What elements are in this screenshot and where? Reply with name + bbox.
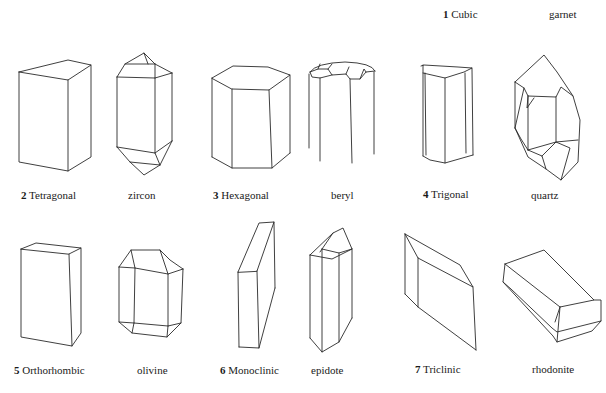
label-monoclinic: 6 Monoclinic <box>220 364 279 376</box>
monoclinic-crystal-drawing <box>238 222 275 348</box>
label-epidote: epidote <box>311 364 343 376</box>
system-name: Cubic <box>451 8 477 20</box>
system-number: 5 <box>14 364 20 376</box>
triclinic-crystal-drawing <box>405 234 476 350</box>
crystal-drawings <box>0 0 606 393</box>
system-name: Monoclinic <box>228 364 279 376</box>
system-number: 7 <box>415 363 421 375</box>
zircon-crystal-drawing <box>117 53 172 175</box>
trigonal-crystal-drawing <box>421 65 473 163</box>
label-olivine: olivine <box>137 364 168 376</box>
tetragonal-crystal-drawing <box>19 60 91 171</box>
label-trigonal: 4 Trigonal <box>423 188 469 200</box>
system-number: 3 <box>213 189 219 201</box>
quartz-crystal-drawing <box>515 55 580 180</box>
olivine-crystal-drawing <box>119 250 183 337</box>
label-orthorhombic: 5 Orthorhombic <box>14 364 85 376</box>
system-name: Tetragonal <box>29 189 76 201</box>
label-tetragonal: 2 Tetragonal <box>21 189 76 201</box>
label-triclinic: 7 Triclinic <box>415 363 461 375</box>
label-quartz: quartz <box>531 189 558 201</box>
label-cubic: 1 Cubic <box>443 8 478 20</box>
hexagonal-crystal-drawing <box>212 66 290 168</box>
system-number: 6 <box>220 364 226 376</box>
label-beryl: beryl <box>331 189 354 201</box>
system-name: Orthorhombic <box>22 364 84 376</box>
label-rhodonite: rhodonite <box>532 363 574 375</box>
orthorhombic-crystal-drawing <box>21 243 81 346</box>
label-zircon: zircon <box>128 189 155 201</box>
system-name: Trigonal <box>431 188 469 200</box>
system-name: Triclinic <box>423 363 461 375</box>
system-number: 1 <box>443 8 449 20</box>
epidote-crystal-drawing <box>310 228 352 352</box>
rhodonite-crystal-drawing <box>503 250 601 342</box>
label-hexagonal: 3 Hexagonal <box>213 189 269 201</box>
label-garnet: garnet <box>549 8 576 20</box>
system-number: 4 <box>423 188 429 200</box>
beryl-crystal-drawing <box>309 62 375 163</box>
system-name: Hexagonal <box>221 189 269 201</box>
system-number: 2 <box>21 189 27 201</box>
